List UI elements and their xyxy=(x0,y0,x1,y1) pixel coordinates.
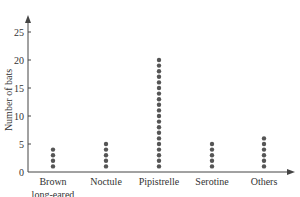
y-axis-title: Number of bats xyxy=(3,69,14,131)
data-dot xyxy=(51,159,55,163)
y-tick-label: 25 xyxy=(14,27,24,38)
x-axis-category-labels: Brownlong-earedNoctulePipistrelleSerotin… xyxy=(32,176,278,197)
x-category-label: Pipistrelle xyxy=(139,176,180,187)
data-dot xyxy=(262,147,266,151)
x-category-label: Serotine xyxy=(195,176,229,187)
y-tick-label: 0 xyxy=(19,167,24,178)
data-dot xyxy=(157,58,161,62)
dot-column xyxy=(262,136,266,168)
data-dot xyxy=(262,136,266,140)
data-dot xyxy=(157,153,161,157)
data-dot xyxy=(157,131,161,135)
data-dot xyxy=(157,136,161,140)
data-dot xyxy=(157,75,161,79)
data-dot xyxy=(210,153,214,157)
y-tick-label: 15 xyxy=(14,83,24,94)
data-dot xyxy=(157,69,161,73)
data-dot xyxy=(157,147,161,151)
data-dot xyxy=(157,125,161,129)
data-dot xyxy=(104,153,108,157)
data-dot xyxy=(210,159,214,163)
data-dot xyxy=(157,114,161,118)
data-dot xyxy=(104,147,108,151)
data-dot xyxy=(157,119,161,123)
data-dot xyxy=(157,63,161,67)
x-category-label: Brown xyxy=(39,176,66,187)
dot-column xyxy=(157,58,161,169)
dot-column xyxy=(51,147,55,168)
data-dot xyxy=(210,164,214,168)
data-dot xyxy=(157,159,161,163)
dot-column xyxy=(210,142,214,169)
data-dot xyxy=(210,147,214,151)
data-dots xyxy=(51,58,266,169)
data-dot xyxy=(51,147,55,151)
data-dot xyxy=(210,142,214,146)
y-tick-label: 10 xyxy=(14,111,24,122)
dot-column xyxy=(104,142,108,169)
data-dot xyxy=(157,142,161,146)
data-dot xyxy=(104,142,108,146)
data-dot xyxy=(157,97,161,101)
data-dot xyxy=(157,91,161,95)
x-category-label: long-eared xyxy=(32,189,75,197)
data-dot xyxy=(157,164,161,168)
y-axis-arrow-icon xyxy=(25,15,31,23)
data-dot xyxy=(157,86,161,90)
y-tick-label: 5 xyxy=(19,139,24,150)
data-dot xyxy=(262,153,266,157)
data-dot xyxy=(262,159,266,163)
y-tick-label: 20 xyxy=(14,55,24,66)
x-category-label: Noctule xyxy=(90,176,122,187)
data-dot xyxy=(157,80,161,84)
data-dot xyxy=(51,153,55,157)
x-axis-arrow-icon xyxy=(287,169,295,175)
x-category-label: Others xyxy=(251,176,278,187)
data-dot xyxy=(104,164,108,168)
data-dot xyxy=(262,142,266,146)
data-dot xyxy=(262,164,266,168)
data-dot xyxy=(157,103,161,107)
data-dot xyxy=(157,108,161,112)
dot-plot-chart: 0510152025 Brownlong-earedNoctulePipistr… xyxy=(0,0,300,197)
data-dot xyxy=(51,164,55,168)
data-dot xyxy=(104,159,108,163)
